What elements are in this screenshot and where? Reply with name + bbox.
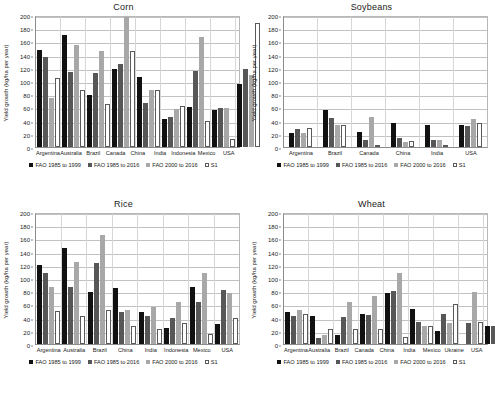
x-tick-label-mexico: Mexico xyxy=(420,347,443,357)
bar-group-india xyxy=(138,214,164,344)
bar xyxy=(471,119,476,147)
bar xyxy=(55,311,60,344)
y-tick-mark xyxy=(279,135,281,136)
y-tick-label: 100 xyxy=(20,80,30,86)
chart-panel-soybeans: SoybeansYield growth (kg/ha per year)200… xyxy=(248,0,495,196)
x-tick-label-canada: Canada xyxy=(104,150,126,160)
legend-label: FAO 1985 to 1999 xyxy=(283,359,328,365)
legend-item-fao-1985-to-2016[interactable]: FAO 1985 to 2016 xyxy=(88,162,139,168)
x-axis-labels-soybeans: ArgentinaBrazilCanadaChinaIndiaUSA xyxy=(284,150,488,160)
bar xyxy=(341,317,346,344)
y-tick-mark xyxy=(31,17,33,18)
legend-label: FAO 2000 to 2016 xyxy=(152,162,197,168)
bar xyxy=(285,312,290,344)
y-tick-label: 80 xyxy=(271,93,278,99)
bar xyxy=(316,338,321,344)
bar xyxy=(87,95,92,147)
legend-item-fao-2000-to-2016[interactable]: FAO 2000 to 2016 xyxy=(394,359,445,365)
legend-item-s1[interactable]: S1 xyxy=(205,162,218,168)
bar xyxy=(363,140,368,147)
y-tick-label: 160 xyxy=(268,40,278,46)
bar xyxy=(182,323,187,344)
bar xyxy=(341,125,346,147)
bar-groups xyxy=(36,17,239,147)
bar xyxy=(174,109,179,147)
bar xyxy=(297,310,302,344)
legend-label: FAO 1985 to 2016 xyxy=(342,162,387,168)
legend-swatch-icon xyxy=(453,360,457,364)
bar xyxy=(347,302,352,344)
legend-soybeans: FAO 1985 to 1999FAO 1985 to 2016FAO 2000… xyxy=(248,162,495,168)
legend-item-s1[interactable]: S1 xyxy=(453,162,466,168)
bar-group-china xyxy=(386,17,420,147)
legend-item-fao-2000-to-2016[interactable]: FAO 2000 to 2016 xyxy=(146,359,197,365)
bar xyxy=(459,125,464,147)
y-tick-label: 40 xyxy=(271,120,278,126)
legend-item-s1[interactable]: S1 xyxy=(205,359,218,365)
plot-area-soybeans xyxy=(283,16,488,148)
x-tick-label-argentina: Argentina xyxy=(284,347,308,357)
legend-item-fao-2000-to-2016[interactable]: FAO 2000 to 2016 xyxy=(146,162,197,168)
bar-group-argentina xyxy=(284,214,309,344)
y-tick-label: 120 xyxy=(268,264,278,270)
y-tick-mark xyxy=(31,214,33,215)
bar xyxy=(391,291,396,344)
bar xyxy=(131,326,136,344)
bar-group-usa xyxy=(454,17,487,147)
legend-item-fao-1985-to-1999[interactable]: FAO 1985 to 1999 xyxy=(277,162,328,168)
y-tick-mark xyxy=(31,122,33,123)
y-tick-mark xyxy=(31,135,33,136)
bar xyxy=(74,262,79,344)
bar-group-ukraine xyxy=(459,214,484,344)
bar-group-mexico xyxy=(211,17,236,147)
legend-item-fao-1985-to-2016[interactable]: FAO 1985 to 2016 xyxy=(336,162,387,168)
y-tick-label: 200 xyxy=(20,211,30,217)
y-tick-mark xyxy=(31,306,33,307)
bar xyxy=(441,314,446,344)
legend-swatch-icon xyxy=(336,163,340,167)
legend-item-fao-2000-to-2016[interactable]: FAO 2000 to 2016 xyxy=(394,162,445,168)
bar-group-indonesia xyxy=(186,17,211,147)
y-tick-label: 120 xyxy=(20,67,30,73)
legend-item-fao-1985-to-2016[interactable]: FAO 1985 to 2016 xyxy=(88,359,139,365)
legend-swatch-icon xyxy=(29,360,33,364)
bar xyxy=(237,84,242,147)
x-tick-label-brazil: Brazil xyxy=(330,347,353,357)
bar-group-canada xyxy=(352,17,386,147)
bar xyxy=(409,141,414,147)
legend-item-fao-1985-to-1999[interactable]: FAO 1985 to 1999 xyxy=(29,162,80,168)
bar xyxy=(491,326,495,344)
bar xyxy=(391,123,396,147)
bar xyxy=(301,133,306,147)
legend-item-fao-1985-to-1999[interactable]: FAO 1985 to 1999 xyxy=(29,359,80,365)
y-tick-label: 40 xyxy=(23,317,30,323)
bar xyxy=(310,316,315,344)
bar xyxy=(190,287,195,344)
legend-label: S1 xyxy=(459,162,466,168)
bar xyxy=(37,265,42,344)
bar xyxy=(437,140,442,147)
legend-item-fao-1985-to-1999[interactable]: FAO 1985 to 1999 xyxy=(277,359,328,365)
y-axis-ticks-wheat: 200180160140120100806040200 xyxy=(248,213,281,346)
figure-caption xyxy=(6,387,306,395)
bar xyxy=(139,312,144,344)
y-tick-label: 140 xyxy=(20,251,30,257)
x-tick-label-indonesia: Indonesia xyxy=(164,347,190,357)
bar-groups xyxy=(36,214,239,344)
bar xyxy=(307,128,312,147)
bar xyxy=(366,315,371,344)
x-tick-label-mexico: Mexico xyxy=(189,347,215,357)
bar xyxy=(397,138,402,147)
y-tick-mark xyxy=(279,43,281,44)
bar xyxy=(93,73,98,147)
bar xyxy=(94,263,99,344)
y-tick-label: 0 xyxy=(275,343,278,349)
legend-item-s1[interactable]: S1 xyxy=(453,359,466,365)
y-tick-mark xyxy=(279,149,281,150)
bar xyxy=(485,326,490,344)
legend-item-fao-1985-to-2016[interactable]: FAO 1985 to 2016 xyxy=(336,359,387,365)
y-tick-mark xyxy=(279,30,281,31)
bar-group-indonesia xyxy=(164,214,190,344)
x-tick-label-argentina: Argentina xyxy=(36,150,60,160)
bar xyxy=(164,328,169,345)
